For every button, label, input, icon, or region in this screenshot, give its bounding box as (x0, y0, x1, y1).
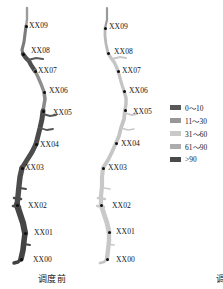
station-label: XX08 (31, 46, 50, 55)
river-segment-xx06-xx05 (43, 92, 45, 111)
legend-row[interactable]: 11～30 (170, 114, 222, 127)
river-segment-xx06-xx05 (124, 91, 126, 110)
legend-row[interactable]: 0～10 (170, 101, 222, 114)
station-label: XX04 (40, 140, 59, 149)
legend-row[interactable]: >90 (170, 153, 222, 166)
station-dot[interactable] (34, 70, 37, 73)
panel-caption-after: 调度后 (180, 272, 223, 285)
legend-label: 0～10 (185, 102, 204, 113)
station-dot[interactable] (42, 110, 45, 113)
river-bank-detail-c (104, 188, 110, 189)
station-label: XX05 (53, 108, 72, 117)
station-dot[interactable] (108, 231, 111, 234)
station-label: XX02 (112, 201, 131, 210)
river-tributary-xx08-right (112, 57, 126, 59)
station-label: XX00 (116, 255, 135, 264)
station-label: XX01 (116, 227, 135, 236)
station-dot[interactable] (104, 27, 107, 30)
legend-label: 61～90 (185, 141, 207, 152)
station-dot[interactable] (24, 232, 27, 235)
legend-swatch-icon (170, 157, 181, 162)
river-bank-detail-d (108, 244, 114, 245)
legend-label: 11～30 (185, 115, 207, 126)
panel-caption-before: 调度前 (2, 272, 102, 285)
river-bank-detail-a (98, 198, 105, 199)
station-label: XX05 (133, 107, 152, 116)
station-label: XX01 (34, 228, 53, 237)
station-dot[interactable] (115, 142, 118, 145)
legend-swatch-icon (170, 144, 181, 149)
station-dot[interactable] (117, 70, 120, 73)
river-segment-xx01-xx00 (107, 232, 109, 259)
river-segment-xx09-xx08 (22, 26, 26, 54)
river-bank-detail-a (14, 198, 21, 199)
river-segment-xx09-xx08 (105, 28, 108, 53)
station-label: XX08 (114, 47, 133, 56)
river-segment-xx01-xx00 (21, 233, 25, 259)
legend-label: 31～60 (185, 128, 207, 139)
station-dot[interactable] (25, 25, 28, 28)
station-label: XX06 (49, 86, 68, 95)
station-label: XX04 (121, 139, 140, 148)
station-dot[interactable] (20, 258, 23, 261)
map-panel-before: XX09XX08XX07XX06XX05XX04XX03XX02XX01XX00… (0, 0, 100, 289)
station-dot[interactable] (123, 90, 126, 93)
legend-row[interactable]: 31～60 (170, 127, 222, 140)
station-dot[interactable] (102, 167, 105, 170)
station-dot[interactable] (100, 204, 103, 207)
station-label: XX02 (28, 201, 47, 210)
river-bank-detail-d (24, 244, 30, 245)
station-dot[interactable] (35, 143, 38, 146)
station-label: XX09 (29, 21, 48, 30)
river-bank-detail-c (20, 188, 26, 189)
river-tributary-xx05-lower (121, 128, 134, 130)
station-dot[interactable] (22, 53, 25, 56)
station-dot[interactable] (21, 167, 24, 170)
legend-swatch-icon (170, 105, 181, 110)
legend-swatch-icon (170, 118, 181, 123)
station-label: XX03 (108, 163, 127, 172)
river-segment-xx02-xx01 (17, 205, 25, 233)
legend: 0～1011～3031～6061～90>90 (170, 101, 222, 166)
station-label: XX07 (122, 66, 141, 75)
figure-container: XX09XX08XX07XX06XX05XX04XX03XX02XX01XX00… (0, 0, 223, 289)
station-label: XX06 (129, 86, 148, 95)
river-segment-xx08-xx07 (23, 54, 35, 71)
station-label: XX09 (109, 22, 128, 31)
station-dot[interactable] (43, 91, 46, 94)
river-segment-head (105, 8, 107, 28)
legend-swatch-icon (170, 131, 181, 136)
station-dot[interactable] (106, 258, 109, 261)
legend-label: >90 (185, 155, 197, 164)
station-dot[interactable] (124, 109, 127, 112)
station-label: XX07 (38, 66, 57, 75)
station-label: XX00 (33, 255, 52, 264)
legend-row[interactable]: 61～90 (170, 140, 222, 153)
station-dot[interactable] (107, 52, 110, 55)
river-tributary-xx08-right (28, 58, 43, 60)
station-label: XX03 (25, 163, 44, 172)
river-segment-head (26, 8, 27, 26)
station-dot[interactable] (16, 204, 19, 207)
river-segment-xx02-xx01 (101, 205, 109, 232)
